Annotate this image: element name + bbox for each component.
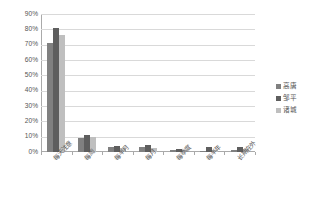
y-axis-tick-label: 50% <box>0 72 38 79</box>
legend-label: 邹平 <box>283 95 297 102</box>
bar-group <box>163 14 194 152</box>
x-axis-tick <box>255 152 256 155</box>
legend-swatch-icon <box>276 96 281 101</box>
y-axis-tick-label: 80% <box>0 26 38 33</box>
bar-group <box>41 14 72 152</box>
bar <box>59 35 65 152</box>
bar-group <box>194 14 225 152</box>
y-axis-tick-label: 40% <box>0 87 38 94</box>
plot-area <box>41 14 255 152</box>
bar-groups <box>41 14 255 152</box>
bar-group <box>72 14 103 152</box>
y-axis-tick-label: 30% <box>0 103 38 110</box>
legend-item[interactable]: 邹平 <box>276 92 316 104</box>
y-axis-tick-label: 90% <box>0 11 38 18</box>
legend-label: 高唐 <box>283 83 297 90</box>
y-axis-tick-label: 60% <box>0 57 38 64</box>
legend-item[interactable]: 高唐 <box>276 80 316 92</box>
x-axis-labels: 每天注意每周每半月每月每季度每半年长期在外 <box>41 155 255 208</box>
y-axis-tick-label: 0% <box>0 149 38 156</box>
y-axis-tick-label: 20% <box>0 118 38 125</box>
bar-group <box>133 14 164 152</box>
legend-swatch-icon <box>276 108 281 113</box>
y-axis-tick-label: 10% <box>0 133 38 140</box>
bar-chart: 90%80%70%60%50%40%30%20%10%0% 每天注意每周每半月每… <box>0 0 316 208</box>
bar-group <box>224 14 255 152</box>
bar-group <box>102 14 133 152</box>
legend-item[interactable]: 诸城 <box>276 104 316 116</box>
chart-legend: 高唐邹平诸城 <box>276 80 316 116</box>
y-axis-tick-label: 70% <box>0 41 38 48</box>
legend-label: 诸城 <box>283 107 297 114</box>
legend-swatch-icon <box>276 84 281 89</box>
y-axis: 90%80%70%60%50%40%30%20%10%0% <box>0 0 41 208</box>
